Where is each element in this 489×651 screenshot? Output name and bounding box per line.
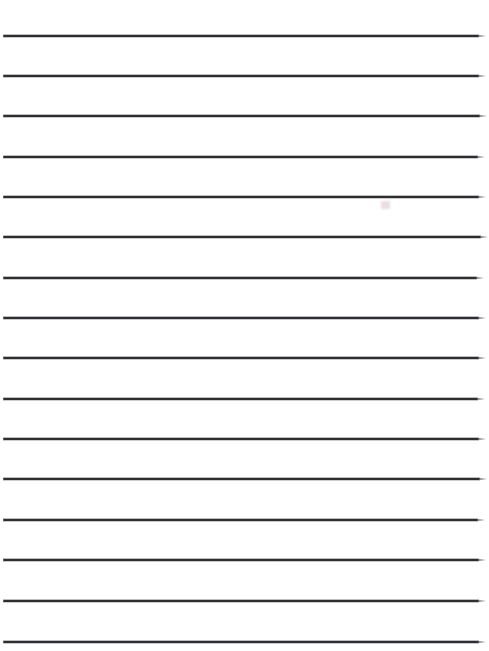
- rule-line[interactable]: [3, 641, 479, 643]
- rule-line[interactable]: [3, 559, 479, 561]
- rule-line[interactable]: [3, 196, 479, 198]
- rule-line[interactable]: [3, 35, 479, 37]
- scan-smudge-artifact: [381, 201, 390, 209]
- rule-line[interactable]: [3, 156, 478, 158]
- rule-line-right-taper: [477, 277, 484, 279]
- rule-line[interactable]: [3, 317, 479, 319]
- rule-line-right-taper: [479, 35, 486, 37]
- rule-line[interactable]: [3, 519, 478, 521]
- rule-line-right-taper: [481, 236, 488, 238]
- rule-line-right-taper: [479, 600, 486, 602]
- rule-line[interactable]: [3, 75, 479, 77]
- rule-line[interactable]: [3, 357, 479, 359]
- rule-line[interactable]: [3, 236, 481, 238]
- lined-paper-sheet[interactable]: [0, 0, 489, 651]
- rule-line-right-taper: [479, 75, 486, 77]
- rule-line[interactable]: [3, 600, 479, 602]
- rule-line-right-taper: [480, 478, 487, 480]
- rule-line[interactable]: [3, 438, 479, 440]
- rule-line-right-taper: [479, 438, 486, 440]
- page-canvas: [0, 0, 489, 651]
- rule-line-right-taper: [479, 196, 486, 198]
- rule-line[interactable]: [3, 277, 477, 279]
- rule-line[interactable]: [3, 398, 478, 400]
- rule-line-right-taper: [478, 519, 485, 521]
- rule-line-right-taper: [479, 317, 486, 319]
- rule-line-right-taper: [478, 398, 485, 400]
- rule-line[interactable]: [3, 115, 480, 117]
- rule-line-right-taper: [479, 641, 486, 643]
- rule-line-right-taper: [480, 115, 487, 117]
- rule-line-right-taper: [479, 357, 486, 359]
- rule-line-right-taper: [479, 559, 486, 561]
- rule-line-right-taper: [478, 156, 485, 158]
- rule-line[interactable]: [3, 478, 480, 480]
